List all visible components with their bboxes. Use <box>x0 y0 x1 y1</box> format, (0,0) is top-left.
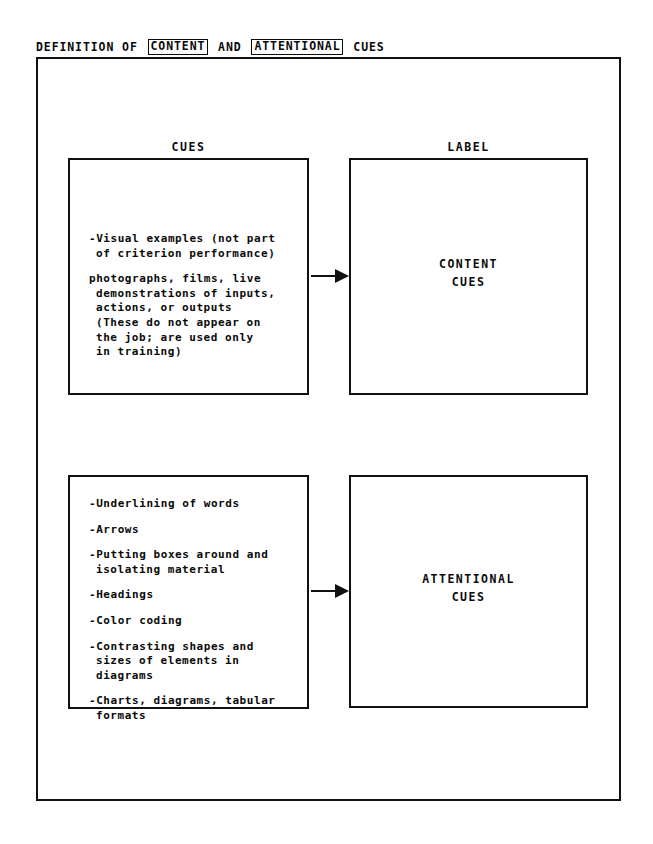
cue-line: (These do not appear on <box>89 316 297 331</box>
cue-line: -Visual examples (not part <box>89 232 297 247</box>
cue-group: -Headings <box>89 588 297 603</box>
cue-group: -Putting boxes around andisolating mater… <box>89 548 297 577</box>
arrow-shaft <box>311 590 336 592</box>
cue-line: isolating material <box>89 563 297 578</box>
cues-box-attentional: -Underlining of words-Arrows-Putting box… <box>68 475 309 709</box>
cue-line: actions, or outputs <box>89 301 297 316</box>
arrow-right-icon-attentional <box>311 585 349 597</box>
column-header-label: LABEL <box>349 140 588 154</box>
cue-group: -Arrows <box>89 523 297 538</box>
arrow-head <box>335 269 349 283</box>
cue-line: the job; are used only <box>89 331 297 346</box>
cue-line: diagrams <box>89 669 297 684</box>
page-title-boxed-content: CONTENT <box>148 39 209 54</box>
page-title-part-1: DEFINITION OF <box>36 40 146 54</box>
arrow-right-icon-content <box>311 270 349 282</box>
cues-text-content: -Visual examples (not partof criterion p… <box>89 232 297 360</box>
cue-group: -Contrasting shapes andsizes of elements… <box>89 640 297 684</box>
cue-group: photographs, films, livedemonstrations o… <box>89 272 297 360</box>
label-text-content: CONTENT CUES <box>351 256 586 292</box>
page-title-part-2: AND <box>210 40 249 54</box>
arrow-head <box>335 584 349 598</box>
cue-group: -Color coding <box>89 614 297 629</box>
page-title-part-3: CUES <box>345 40 384 54</box>
cues-box-content: -Visual examples (not partof criterion p… <box>68 158 309 395</box>
cues-text-attentional: -Underlining of words-Arrows-Putting box… <box>89 497 297 724</box>
cue-line: in training) <box>89 345 297 360</box>
cue-line: -Color coding <box>89 614 297 629</box>
cue-line: demonstrations of inputs, <box>89 287 297 302</box>
page-title: DEFINITION OF CONTENT AND ATTENTIONAL CU… <box>36 38 385 56</box>
cue-line: sizes of elements in <box>89 654 297 669</box>
page-title-boxed-attentional: ATTENTIONAL <box>251 39 343 54</box>
label-text-attentional: ATTENTIONAL CUES <box>351 571 586 607</box>
cue-group: -Visual examples (not partof criterion p… <box>89 232 297 261</box>
cue-line: of criterion performance) <box>89 247 297 262</box>
cue-line: -Underlining of words <box>89 497 297 512</box>
cue-line: -Headings <box>89 588 297 603</box>
column-header-cues: CUES <box>68 140 309 154</box>
cue-line: -Charts, diagrams, tabular <box>89 694 297 709</box>
cue-line: -Putting boxes around and <box>89 548 297 563</box>
label-box-content: CONTENT CUES <box>349 158 588 395</box>
cue-group: -Underlining of words <box>89 497 297 512</box>
cue-line: -Contrasting shapes and <box>89 640 297 655</box>
cue-line: photographs, films, live <box>89 272 297 287</box>
cue-line: -Arrows <box>89 523 297 538</box>
arrow-shaft <box>311 275 336 277</box>
cue-line: formats <box>89 709 297 724</box>
cue-group: -Charts, diagrams, tabularformats <box>89 694 297 723</box>
label-box-attentional: ATTENTIONAL CUES <box>349 475 588 708</box>
